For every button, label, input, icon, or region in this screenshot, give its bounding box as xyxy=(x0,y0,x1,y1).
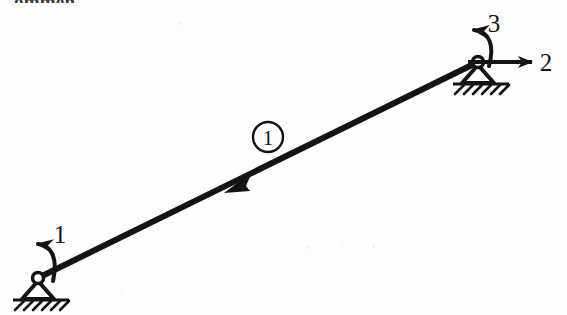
dof-1-label: 1 xyxy=(54,221,67,248)
left-support-node-icon xyxy=(33,273,44,284)
dof-2-label: 2 xyxy=(540,49,553,76)
beam-element xyxy=(38,62,478,278)
dof-3-label: 3 xyxy=(488,10,501,37)
element-label-text: 1 xyxy=(263,126,274,150)
diagram-canvas: 1 xyxy=(0,0,567,315)
left-support-hatching-icon xyxy=(15,301,69,310)
dof-2-force: 2 xyxy=(468,49,552,76)
left-pin-support xyxy=(13,273,69,311)
element-label-group: 1 xyxy=(253,122,283,152)
right-support-hatching-icon xyxy=(455,85,509,94)
beam-diagram-figure: ommen 1 xyxy=(0,0,567,315)
beam-line xyxy=(38,62,478,278)
